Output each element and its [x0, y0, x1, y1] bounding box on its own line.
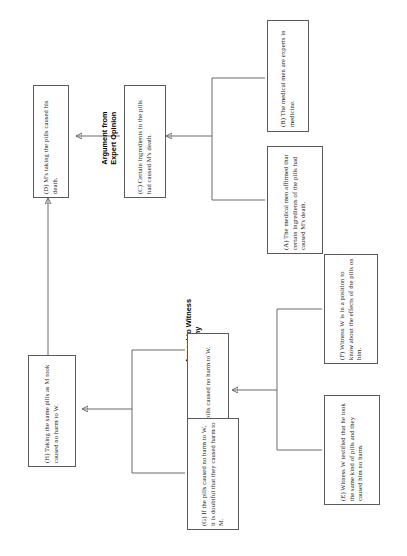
- scheme-label-expert-opinion-text: Argument from Expert Opinion: [100, 111, 119, 164]
- node-a-label: (A) The medical men affirmed that certai…: [282, 150, 308, 250]
- node-g[interactable]: (G) If the pills caused no harm to W, it…: [187, 418, 239, 530]
- node-a[interactable]: (A) The medical men affirmed that certai…: [267, 146, 323, 254]
- diagram-canvas: Argument from Expert Opinion Appeal to W…: [0, 0, 407, 556]
- node-f-label: (F) Witness W is in a position to know a…: [338, 258, 364, 360]
- node-e-label: (E) Witness W testified that he took the…: [339, 399, 365, 501]
- node-c-label: (C) Certain ingredients in the pills had…: [136, 90, 153, 194]
- node-h-label: (H) Taking the same pills as M took caus…: [43, 359, 60, 463]
- node-c[interactable]: (C) Certain ingredients in the pills had…: [124, 85, 166, 198]
- node-b[interactable]: (B) The medical men are experts in medic…: [267, 20, 309, 132]
- scheme-label-expert-opinion: Argument from Expert Opinion: [98, 100, 120, 176]
- node-g-label: (G) If the pills caused no harm to W, it…: [200, 422, 226, 526]
- node-d[interactable]: (D) M's taking the pills caused his deat…: [33, 85, 69, 198]
- node-d-label: (D) M's taking the pills caused his deat…: [42, 90, 59, 194]
- node-h[interactable]: (H) Taking the same pills as M took caus…: [28, 355, 76, 467]
- node-e[interactable]: (E) Witness W testified that he took the…: [324, 395, 380, 505]
- node-f[interactable]: (F) Witness W is in a position to know a…: [324, 254, 378, 364]
- node-b-label: (B) The medical men are experts in medic…: [279, 25, 296, 127]
